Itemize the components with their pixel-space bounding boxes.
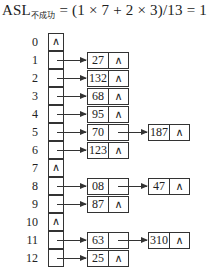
pointer-arrow — [118, 186, 147, 187]
pointer-arrow — [57, 258, 86, 259]
asl-subscript: 不成功 — [31, 11, 56, 20]
asl-expression: = (1 × 7 + 2 × 3)/13 = 1 — [60, 2, 208, 18]
pointer-arrow — [57, 114, 86, 115]
node-key: 68 — [88, 89, 109, 104]
null-pointer-icon: ∧ — [109, 197, 128, 212]
null-pointer-icon: ∧ — [109, 143, 128, 158]
pointer-arrow — [118, 132, 147, 133]
slot-index: 11 — [16, 231, 38, 249]
null-pointer-icon: ∧ — [109, 107, 128, 122]
chain-node: 187∧ — [148, 124, 190, 141]
chain-node: 87∧ — [87, 196, 129, 213]
pointer-arrow — [57, 60, 86, 61]
null-pointer-icon: ∧ — [170, 179, 189, 194]
node-key: 95 — [88, 107, 109, 122]
chain-node: 95∧ — [87, 106, 129, 123]
node-key: 132 — [88, 71, 109, 86]
pointer-arrow — [57, 96, 86, 97]
node-key: 08 — [88, 179, 109, 194]
asl-formula: ASL不成功 = (1 × 7 + 2 × 3)/13 = 1 — [2, 2, 207, 20]
pointer-arrow — [57, 240, 86, 241]
node-key: 70 — [88, 125, 109, 140]
slot-index: 1 — [16, 51, 38, 69]
pointer-arrow — [57, 204, 86, 205]
slot-index: 10 — [16, 213, 38, 231]
chain-node: 132∧ — [87, 70, 129, 87]
node-key: 123 — [88, 143, 109, 158]
slot-index: 3 — [16, 87, 38, 105]
node-key: 87 — [88, 197, 109, 212]
pointer-arrow — [57, 132, 86, 133]
pointer-arrow — [57, 186, 86, 187]
chain-node: 123∧ — [87, 142, 129, 159]
slot-cell-null: ∧ — [48, 33, 64, 51]
node-key: 27 — [88, 53, 109, 68]
slot-cell-null: ∧ — [48, 159, 64, 177]
chain-node: 47∧ — [148, 178, 190, 195]
slot-index: 6 — [16, 141, 38, 159]
chain-node: 310∧ — [148, 232, 190, 249]
null-pointer-icon: ∧ — [170, 125, 189, 140]
node-key: 47 — [149, 179, 170, 194]
chain-node: 27∧ — [87, 52, 129, 69]
asl-label: ASL — [2, 2, 31, 18]
slot-index: 8 — [16, 177, 38, 195]
slot-index: 9 — [16, 195, 38, 213]
pointer-arrow — [57, 150, 86, 151]
null-pointer-icon: ∧ — [109, 251, 128, 266]
slot-index: 0 — [16, 33, 38, 51]
pointer-arrow — [118, 240, 147, 241]
null-pointer-icon: ∧ — [170, 233, 189, 248]
slot-index: 5 — [16, 123, 38, 141]
slot-index: 2 — [16, 69, 38, 87]
null-pointer-icon: ∧ — [109, 89, 128, 104]
node-key: 187 — [149, 125, 170, 140]
slot-index: 12 — [16, 249, 38, 267]
slot-index: 7 — [16, 159, 38, 177]
node-key: 63 — [88, 233, 109, 248]
pointer-arrow — [57, 78, 86, 79]
slot-index: 4 — [16, 105, 38, 123]
chain-node: 68∧ — [87, 88, 129, 105]
chain-node: 25∧ — [87, 250, 129, 267]
node-key: 310 — [149, 233, 170, 248]
slot-cell-null: ∧ — [48, 213, 64, 231]
null-pointer-icon: ∧ — [109, 71, 128, 86]
node-key: 25 — [88, 251, 109, 266]
null-pointer-icon: ∧ — [109, 53, 128, 68]
